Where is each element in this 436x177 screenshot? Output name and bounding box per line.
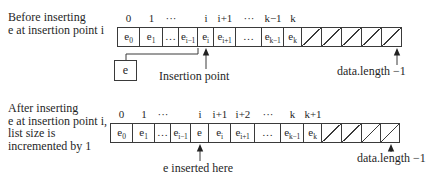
caption-before-insertion: Before insertinge at insertion point i — [8, 11, 104, 36]
array-cell: ek — [304, 123, 322, 143]
array-cell: ek−1 — [281, 123, 304, 143]
array-cell: ei−1 — [171, 123, 191, 143]
capacity-before-up-arrow-icon — [394, 48, 400, 65]
array-cell: … — [255, 123, 281, 143]
array-cell: … — [155, 123, 171, 143]
array-after-insertion: 0e01e1···…ei−1iei+1eii+2ei+1···…kek−1k+1… — [110, 107, 400, 143]
index-label: ··· — [155, 107, 171, 123]
array-cell: … — [163, 27, 179, 47]
array-column: 0e0 — [117, 11, 140, 47]
e-inserted-here-label: e inserted here — [163, 161, 233, 176]
array-column: ···… — [236, 11, 262, 47]
inserted-here-up-arrow-icon — [197, 144, 203, 161]
index-label: k+1 — [304, 107, 322, 123]
free-cell — [342, 27, 362, 47]
element-subscript: k−1 — [289, 132, 300, 141]
array-column: kek−1 — [281, 107, 304, 143]
array-column — [302, 11, 322, 47]
free-cell — [322, 27, 342, 47]
array-column — [322, 107, 342, 143]
array-cell: e1 — [140, 27, 163, 47]
array-column — [342, 107, 362, 143]
element-subscript: i−1 — [186, 36, 195, 45]
array-column — [342, 11, 362, 47]
element-subscript: i+1 — [240, 132, 249, 141]
index-label — [382, 11, 402, 27]
array-cell: ek−1 — [262, 27, 284, 47]
index-label: i+1 — [209, 107, 231, 123]
index-label: i+1 — [214, 11, 236, 27]
element-subscript: 1 — [144, 132, 147, 141]
index-label: k−1 — [262, 11, 284, 27]
element-subscript: k — [313, 132, 316, 141]
element-subscript: 1 — [152, 36, 155, 45]
array-cell: ei+1 — [214, 27, 236, 47]
caption-after-insertion: After insertinge at insertion point i,li… — [8, 102, 107, 152]
array-cell: e — [191, 123, 209, 143]
array-cell: e1 — [133, 123, 155, 143]
array-column: kek — [284, 11, 302, 47]
free-cell — [322, 123, 342, 143]
index-label: 1 — [140, 11, 163, 27]
free-cell — [362, 27, 382, 47]
element-subscript: i — [221, 132, 223, 141]
array-column: k+1ek — [304, 107, 322, 143]
index-label — [381, 107, 400, 123]
array-cell: e0 — [110, 123, 133, 143]
index-label: k — [281, 107, 304, 123]
element-subscript: k−1 — [270, 36, 281, 45]
free-cell — [382, 27, 402, 47]
array-column: i+2ei+1 — [231, 107, 255, 143]
insertion-point-label: Insertion point — [159, 69, 229, 84]
free-cell — [381, 123, 400, 143]
element-base: e — [197, 126, 202, 138]
array-column: iei — [198, 11, 214, 47]
index-label: 0 — [117, 11, 140, 27]
free-cell — [302, 27, 322, 47]
caption-line: incremented by 1 — [8, 140, 107, 153]
array-column: 0e0 — [110, 107, 133, 143]
array-column: i+1ei — [209, 107, 231, 143]
index-label — [179, 11, 198, 27]
element-subscript: 0 — [122, 132, 125, 141]
index-label: k — [284, 11, 302, 27]
insert-bracket-line — [126, 48, 198, 60]
element-subscript: i — [207, 36, 209, 45]
array-insertion-figure: Before insertinge at insertion point i A… — [0, 0, 436, 177]
array-column: ie — [191, 107, 209, 143]
index-label — [342, 11, 362, 27]
array-column — [362, 107, 381, 143]
caption-line: After inserting — [8, 102, 107, 115]
index-label — [342, 107, 362, 123]
element-e-box: e — [114, 60, 137, 81]
data-length-label-after: data.length −1 — [357, 151, 426, 166]
array-column: i+1ei+1 — [214, 11, 236, 47]
array-before-insertion: 0e01e1···…ei−1ieii+1ei+1···…k−1ek−1kek — [117, 11, 402, 47]
index-label: ··· — [255, 107, 281, 123]
caption-line: list size is — [8, 127, 107, 140]
element-e-label: e — [123, 63, 128, 77]
data-length-label-before: data.length −1 — [337, 64, 406, 79]
array-column: k−1ek−1 — [262, 11, 284, 47]
array-column: ···… — [155, 107, 171, 143]
caption-line: Before inserting — [8, 11, 104, 24]
index-label: i — [198, 11, 214, 27]
index-label: i — [191, 107, 209, 123]
array-cell: ei−1 — [179, 27, 198, 47]
array-column — [322, 11, 342, 47]
index-label — [171, 107, 191, 123]
array-cell: e0 — [117, 27, 140, 47]
array-cell: ek — [284, 27, 302, 47]
element-subscript: i−1 — [178, 132, 187, 141]
index-label: 1 — [133, 107, 155, 123]
index-label: ··· — [163, 11, 179, 27]
free-cell — [342, 123, 362, 143]
array-column: 1e1 — [140, 11, 163, 47]
index-label — [322, 11, 342, 27]
index-label — [322, 107, 342, 123]
element-subscript: k — [293, 36, 296, 45]
array-cell: … — [236, 27, 262, 47]
caption-line: e at insertion point i — [8, 24, 104, 37]
array-column: ···… — [255, 107, 281, 143]
array-cell: ei+1 — [231, 123, 255, 143]
